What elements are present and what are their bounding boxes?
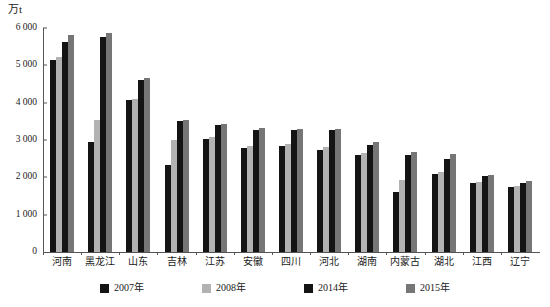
bar-group bbox=[470, 28, 494, 252]
bar-山东-2015年 bbox=[144, 78, 150, 252]
x-axis-tick-mark bbox=[501, 252, 502, 255]
x-axis-category-label: 山东 bbox=[128, 256, 148, 268]
bar-group bbox=[393, 28, 417, 252]
y-axis-tick-label: 0 bbox=[32, 247, 43, 257]
bar-四川-2015年 bbox=[297, 129, 303, 252]
bar-湖北-2015年 bbox=[450, 154, 456, 252]
legend-item-2014年: 2014年 bbox=[304, 283, 348, 293]
y-axis-tick-label: 4 000 bbox=[16, 98, 43, 108]
bar-江西-2015年 bbox=[488, 175, 494, 252]
x-axis-tick-mark bbox=[119, 252, 120, 255]
y-axis-tick-mark bbox=[43, 28, 47, 29]
x-axis-tick-mark bbox=[81, 252, 82, 255]
bar-group bbox=[50, 28, 74, 252]
bar-湖南-2015年 bbox=[373, 142, 379, 252]
y-axis-tick-mark bbox=[43, 177, 47, 178]
x-axis-category-label: 吉林 bbox=[167, 256, 187, 268]
y-axis-tick-label: 1 000 bbox=[16, 210, 43, 220]
bar-group bbox=[126, 28, 150, 252]
bar-group bbox=[432, 28, 456, 252]
x-axis-category-label: 安徽 bbox=[243, 256, 263, 268]
plot-area: 01 0002 0003 0004 0005 0006 000 bbox=[43, 28, 539, 252]
chart-legend: 2007年2008年2014年2015年 bbox=[0, 283, 550, 293]
bar-group bbox=[165, 28, 189, 252]
y-axis-tick-label: 3 000 bbox=[16, 135, 43, 145]
x-axis-tick-mark bbox=[272, 252, 273, 255]
x-axis-category-label: 江西 bbox=[472, 256, 492, 268]
x-axis-category-label: 黑龙江 bbox=[85, 256, 115, 268]
x-axis-tick-mark bbox=[43, 252, 44, 255]
bar-group bbox=[355, 28, 379, 252]
legend-label: 2008年 bbox=[216, 283, 246, 293]
x-axis-category-label: 四川 bbox=[281, 256, 301, 268]
y-axis-tick-label: 5 000 bbox=[16, 61, 43, 71]
legend-label: 2015年 bbox=[420, 283, 450, 293]
bar-group bbox=[88, 28, 112, 252]
legend-label: 2007年 bbox=[114, 283, 144, 293]
legend-swatch-icon bbox=[202, 284, 211, 293]
bar-group bbox=[317, 28, 341, 252]
x-axis-line bbox=[43, 252, 540, 253]
bar-group bbox=[203, 28, 227, 252]
bar-河北-2015年 bbox=[335, 129, 341, 252]
legend-swatch-icon bbox=[100, 284, 109, 293]
y-axis-tick-mark bbox=[43, 102, 47, 103]
legend-item-2015年: 2015年 bbox=[406, 283, 450, 293]
bar-吉林-2015年 bbox=[183, 120, 189, 252]
y-axis-tick-label: 6 000 bbox=[16, 23, 43, 33]
x-axis-category-label: 内蒙古 bbox=[390, 256, 420, 268]
legend-swatch-icon bbox=[304, 284, 313, 293]
bar-group bbox=[241, 28, 265, 252]
legend-item-2007年: 2007年 bbox=[100, 283, 144, 293]
x-axis-category-label: 河南 bbox=[52, 256, 72, 268]
x-axis-category-label: 辽宁 bbox=[510, 256, 530, 268]
y-axis-tick-label: 2 000 bbox=[16, 173, 43, 183]
bar-group bbox=[508, 28, 532, 252]
bar-辽宁-2015年 bbox=[526, 181, 532, 252]
x-axis-category-label: 河北 bbox=[319, 256, 339, 268]
bar-group bbox=[279, 28, 303, 252]
x-axis-tick-mark bbox=[157, 252, 158, 255]
bar-河南-2015年 bbox=[68, 35, 74, 252]
x-axis-tick-mark bbox=[234, 252, 235, 255]
x-axis-tick-mark bbox=[348, 252, 349, 255]
x-axis-category-label: 江苏 bbox=[205, 256, 225, 268]
bar-chart: 万t 01 0002 0003 0004 0005 0006 000 2007年… bbox=[0, 0, 550, 307]
legend-label: 2014年 bbox=[318, 283, 348, 293]
bar-江苏-2015年 bbox=[221, 124, 227, 252]
x-axis-tick-mark bbox=[463, 252, 464, 255]
x-axis-category-label: 湖南 bbox=[357, 256, 377, 268]
legend-swatch-icon bbox=[406, 284, 415, 293]
x-axis-tick-mark bbox=[425, 252, 426, 255]
y-axis-tick-mark bbox=[43, 214, 47, 215]
y-axis-tick-mark bbox=[43, 65, 47, 66]
x-axis-tick-mark bbox=[310, 252, 311, 255]
x-axis-tick-mark bbox=[196, 252, 197, 255]
legend-item-2008年: 2008年 bbox=[202, 283, 246, 293]
bar-黑龙江-2015年 bbox=[106, 33, 112, 252]
x-axis-category-label: 湖北 bbox=[434, 256, 454, 268]
bar-安徽-2015年 bbox=[259, 128, 265, 252]
bar-内蒙古-2015年 bbox=[411, 152, 417, 252]
x-axis-tick-mark bbox=[386, 252, 387, 255]
y-axis-unit-label: 万t bbox=[8, 4, 22, 15]
y-axis-tick-mark bbox=[43, 140, 47, 141]
